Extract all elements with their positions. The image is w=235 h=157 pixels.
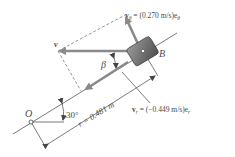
beta-label: β <box>100 59 106 70</box>
origin-label: O <box>25 108 32 119</box>
beta-angle-arc <box>114 58 116 68</box>
v-theta-arrow <box>126 18 138 44</box>
velocity-label: v <box>54 40 58 49</box>
point-b-label: B <box>159 48 165 59</box>
v-r-arrow <box>86 62 128 89</box>
radius-label: r = 0.481 m <box>76 99 116 129</box>
velocity-parallelogram <box>58 15 125 91</box>
v-theta-label: vθ = (0.270 m/s)eθ <box>125 11 180 21</box>
polar-velocity-diagram: O B v β 30° r = 0.481 m vθ = (0.270 m/s)… <box>0 0 235 157</box>
origin-o-pin <box>29 120 33 124</box>
v-r-leader-line <box>122 72 150 103</box>
point-b-pin <box>141 49 145 53</box>
angle-30-arc <box>62 103 64 120</box>
v-r-label: vr = (−0.449 m/s)er <box>132 105 191 115</box>
